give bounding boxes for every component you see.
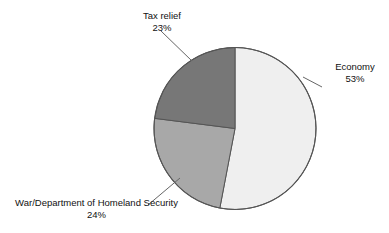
slice-label-economy-value: 53% [323,73,387,85]
slice-label-war-dhs-value: 24% [4,209,189,221]
pie-slice-tax-relief[interactable] [155,48,235,129]
leader-line-tax-relief [161,31,192,61]
leader-line-economy [303,77,322,87]
slice-label-war-dhs: War/Department of Homeland Security 24% [4,197,189,221]
slice-label-tax-relief-value: 23% [112,22,212,34]
slice-label-war-dhs-name: War/Department of Homeland Security [4,197,189,209]
slice-label-tax-relief-name: Tax relief [112,10,212,22]
pie-chart-figure: Tax relief 23% Economy 53% War/Departmen… [0,0,389,233]
pie-slice-war-dhs[interactable] [154,118,235,208]
slice-label-economy: Economy 53% [323,61,387,85]
slice-label-tax-relief: Tax relief 23% [112,10,212,34]
slice-label-economy-name: Economy [323,61,387,73]
